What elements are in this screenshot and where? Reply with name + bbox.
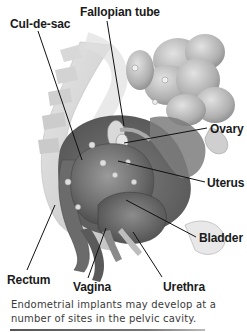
label-uterus: Uterus (207, 177, 244, 189)
label-fallopian-tube: Fallopian tube (80, 6, 160, 18)
label-urethra: Urethra (163, 281, 205, 293)
caption-divider (10, 329, 205, 331)
figure-caption: Endometrial implants may develop at a nu… (11, 298, 241, 326)
label-vagina: Vagina (73, 281, 111, 293)
label-bladder: Bladder (199, 232, 243, 244)
leader-rectum (27, 205, 55, 270)
pelvic-anatomy-figure: Fallopian tube Cul-de-sac Ovary Uterus B… (0, 0, 247, 332)
label-ovary: Ovary (210, 123, 244, 135)
label-rectum: Rectum (7, 274, 50, 286)
label-cul-de-sac: Cul-de-sac (10, 18, 70, 30)
